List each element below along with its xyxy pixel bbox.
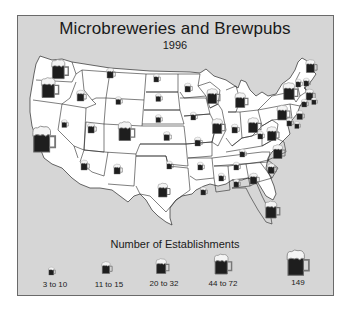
legend-label: 11 to 15 bbox=[87, 280, 131, 289]
mug-icon-nj bbox=[297, 111, 305, 120]
legend-mug-icon-2 bbox=[102, 262, 112, 274]
mug-icon-ct bbox=[302, 99, 309, 107]
mug-icon-me bbox=[306, 60, 317, 73]
legend-symbols bbox=[49, 250, 309, 275]
mug-icon-fl bbox=[265, 201, 280, 218]
mug-icon-de bbox=[295, 122, 301, 129]
legend-label: 149 bbox=[280, 278, 316, 287]
mug-icon-ri bbox=[312, 98, 318, 105]
mug-icon-nc bbox=[273, 145, 285, 159]
legend-label: 3 to 10 bbox=[35, 280, 75, 289]
legend-mug-icon-5 bbox=[287, 250, 309, 275]
us-map bbox=[0, 0, 350, 309]
legend-mug-icon-3 bbox=[156, 259, 169, 274]
legend-mug-icon-4 bbox=[214, 254, 231, 274]
legend-label: 20 to 32 bbox=[142, 279, 186, 288]
legend-label: 44 to 72 bbox=[201, 279, 245, 288]
legend-title: Number of Establishments bbox=[0, 238, 350, 250]
legend-mug-icon-1 bbox=[49, 267, 56, 275]
mug-icon-la bbox=[201, 187, 208, 195]
mug-icon-sc bbox=[268, 164, 277, 174]
